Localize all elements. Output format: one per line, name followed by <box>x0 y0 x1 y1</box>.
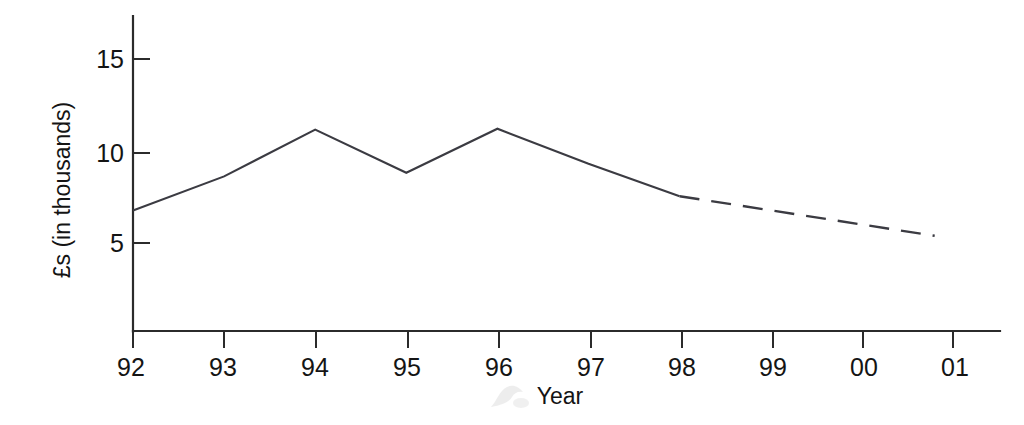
x-tick-label-96: 96 <box>485 353 513 381</box>
x-tick-label-01: 01 <box>941 353 969 381</box>
line-chart: 15 10 5 £s (in thousands) 92 93 94 95 96 <box>0 0 1024 425</box>
y-tick-label-10: 10 <box>96 139 124 167</box>
y-axis-title: £s (in thousands) <box>49 102 75 278</box>
x-tick-label-94: 94 <box>301 353 329 381</box>
series-line-forecast <box>680 196 935 236</box>
y-tick-label-5: 5 <box>110 229 124 257</box>
x-tick-label-00: 00 <box>850 353 878 381</box>
x-axis-title: Year <box>537 383 584 409</box>
x-tick-label-93: 93 <box>209 353 237 381</box>
y-axis-tick-labels: 15 10 5 <box>96 45 124 257</box>
x-axis-tick-labels: 92 93 94 95 96 97 98 99 00 01 <box>117 353 969 381</box>
x-tick-label-98: 98 <box>668 353 696 381</box>
chart-page: 15 10 5 £s (in thousands) 92 93 94 95 96 <box>0 0 1024 425</box>
y-axis-ticks <box>133 59 150 243</box>
x-tick-label-92: 92 <box>117 353 145 381</box>
x-tick-label-99: 99 <box>759 353 787 381</box>
x-tick-label-95: 95 <box>393 353 421 381</box>
x-tick-label-97: 97 <box>577 353 605 381</box>
series-line-actual <box>133 129 680 211</box>
y-tick-label-15: 15 <box>96 45 124 73</box>
x-axis-ticks <box>133 331 953 348</box>
